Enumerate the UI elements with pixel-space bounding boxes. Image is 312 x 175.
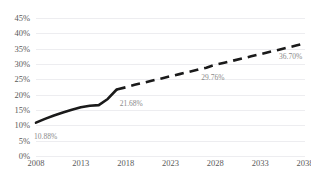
y-axis-tick-labels: 45%40%35%30%25%20%15%10%5%0% [0, 0, 34, 175]
line-chart: 45%40%35%30%25%20%15%10%5%0% 10.88%21.68… [0, 0, 311, 175]
mid-forecast-value: 29.76% [201, 74, 224, 82]
x-axis-tick: 2028 [207, 159, 224, 168]
historical-line [36, 90, 117, 123]
forecast-line [117, 43, 305, 89]
y-axis-tick: 15% [14, 106, 30, 115]
x-axis-tick: 2023 [162, 159, 179, 168]
series-paths [36, 18, 305, 156]
y-axis-tick: 30% [14, 60, 30, 69]
x-axis-tick: 2013 [72, 159, 89, 168]
gridline [36, 156, 305, 157]
x-axis-tick: 2038 [297, 159, 312, 168]
x-axis-tick: 2018 [117, 159, 134, 168]
y-axis-tick: 40% [14, 29, 30, 38]
start-value: 10.88% [34, 133, 57, 141]
forecast-end-value: 36.70% [279, 53, 302, 61]
y-axis-tick: 35% [14, 45, 30, 54]
x-axis-tick-labels: 2008201320182023202820332038 [0, 159, 311, 175]
historical-end-value: 21.68% [120, 100, 143, 108]
y-axis-tick: 5% [19, 137, 30, 146]
y-axis-tick: 25% [14, 75, 30, 84]
x-axis-tick: 2033 [252, 159, 269, 168]
x-axis-tick: 2008 [28, 159, 45, 168]
y-axis-tick: 20% [14, 91, 30, 100]
plot-area: 10.88%21.68%29.76%36.70% [36, 18, 305, 156]
y-axis-tick: 45% [14, 14, 30, 23]
y-axis-tick: 10% [14, 121, 30, 130]
